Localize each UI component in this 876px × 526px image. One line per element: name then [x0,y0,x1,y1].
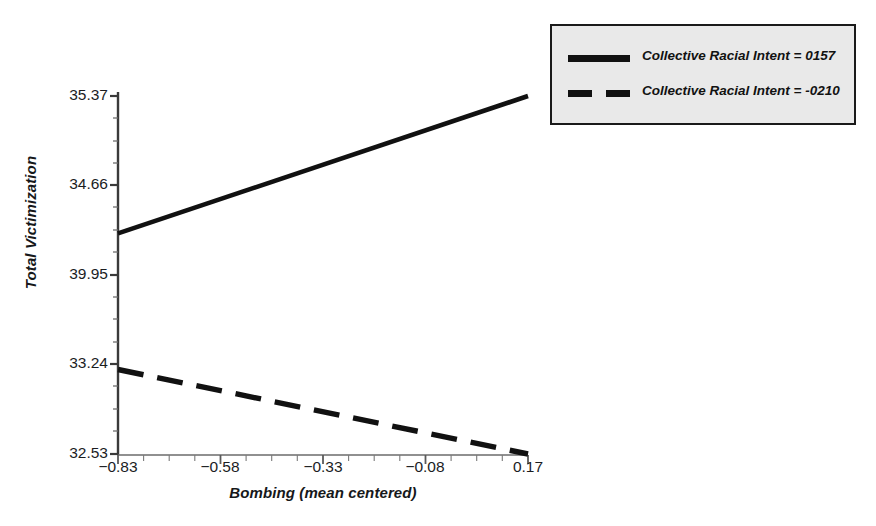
legend-swatch-dashed-line-icon [568,90,630,97]
y-tick-label-34-66: 34.66 [46,176,108,192]
legend-label-dashed: Collective Racial Intent = -0210 [642,83,840,98]
x-tick-label-0-17: 0.17 [493,459,563,475]
x-tick-label-0-33: −0.33 [288,459,358,475]
y-tick-label-33-24: 33.24 [46,355,108,371]
y-tick-label-35-37: 35.37 [46,87,108,103]
legend-swatch-solid-line-icon [568,55,630,62]
y-tick-label-39-95: 39.95 [46,266,108,282]
series-line-dashed [118,370,528,455]
x-tick-label-0-83: −0.83 [83,459,153,475]
legend-box: Collective Racial Intent = 0157 Collecti… [550,24,856,125]
x-tick-label-group: −0.83 −0.58 −0.33 −0.08 0.17 [0,459,876,483]
y-tick-label-group: 35.37 34.66 39.95 33.24 32.53 [42,0,108,526]
series-line-solid [118,96,528,233]
x-tick-label-0-58: −0.58 [185,459,255,475]
x-axis-title: Bombing (mean centered) [118,484,528,501]
legend-entry-dashed: Collective Racial Intent = -0210 [552,81,854,107]
x-tick-label-0-08: −0.08 [390,459,460,475]
chart-figure: 35.37 34.66 39.95 33.24 32.53 −0.83 −0.5… [0,0,876,526]
legend-label-solid: Collective Racial Intent = 0157 [642,48,835,63]
y-axis-title: Total Victimization [22,133,39,313]
legend-entry-solid: Collective Racial Intent = 0157 [552,46,854,72]
